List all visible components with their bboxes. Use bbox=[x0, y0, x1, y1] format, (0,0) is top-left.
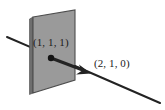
plane-surface bbox=[33, 10, 75, 93]
geometry-figure: (1, 1, 1) (2, 1, 0) bbox=[0, 0, 165, 110]
vector-coordinate-label: (2, 1, 0) bbox=[94, 57, 130, 69]
point-dot bbox=[48, 55, 54, 61]
point-coordinate-label: (1, 1, 1) bbox=[33, 36, 69, 48]
figure-canvas bbox=[0, 0, 165, 110]
